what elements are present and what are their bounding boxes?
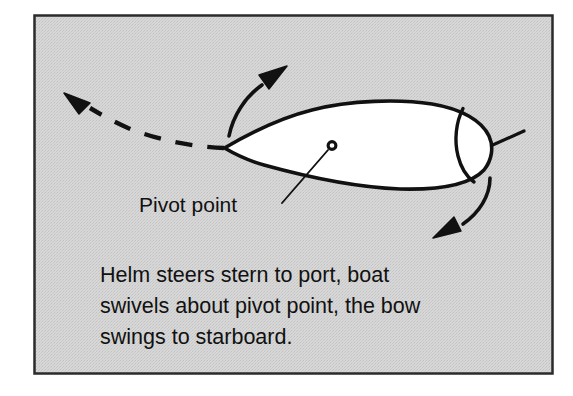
caption-line-2: swivels about pivot point, the bow [100, 294, 421, 318]
caption-line-1: Helm steers stern to port, boat [100, 263, 389, 287]
figure-root: Pivot point Helm steers stern to port, b… [0, 0, 573, 396]
frame-border [35, 16, 553, 374]
caption-line-3: swings to starboard. [100, 325, 292, 349]
figure-frame [35, 16, 553, 374]
pivot-point-label: Pivot point [139, 193, 237, 216]
pivot-point-marker-icon [328, 142, 336, 150]
diagram-canvas: Pivot point Helm steers stern to port, b… [0, 0, 573, 396]
